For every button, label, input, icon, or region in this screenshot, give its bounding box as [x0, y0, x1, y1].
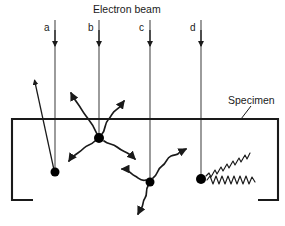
- secondary-electron-arrow-b-up-right: [102, 101, 124, 134]
- backscattered-electron-arrow-a: [35, 80, 55, 170]
- diagram-title: Electron beam: [93, 4, 161, 15]
- secondary-electron-arrow-c-down: [138, 186, 148, 214]
- secondary-electron-arrow-b-up-left: [71, 93, 97, 134]
- beam-label-b: b: [88, 23, 94, 33]
- secondary-electron-arrow-b-down-right: [104, 141, 135, 159]
- interaction-point-d: [196, 174, 206, 184]
- interaction-point-c: [146, 178, 155, 187]
- secondary-electron-arrow-c-up-left: [122, 169, 146, 181]
- specimen-label: Specimen: [228, 95, 275, 106]
- incident-beam-group: [55, 20, 201, 182]
- beam-label-d: d: [190, 23, 196, 33]
- emission-group-b: [69, 93, 135, 161]
- beam-label-c: c: [139, 23, 144, 33]
- xray-zigzag-d-horizontal: [207, 176, 255, 184]
- interaction-points-group: [51, 133, 207, 187]
- interaction-point-a: [51, 168, 60, 177]
- emission-group-d: [206, 153, 255, 184]
- diagram-canvas: Electron beam a b c d Specimen: [0, 0, 285, 226]
- beam-label-a: a: [44, 23, 50, 33]
- electron-beam-specimen-diagram: [0, 0, 285, 226]
- interaction-point-b: [94, 133, 104, 143]
- secondary-electron-arrow-c-up-right: [153, 149, 186, 178]
- xray-zigzag-d-up-right: [206, 153, 250, 177]
- specimen-leader-line: [241, 106, 251, 119]
- emission-group-a: [35, 80, 55, 170]
- secondary-electron-arrow-b-down-left: [69, 141, 95, 161]
